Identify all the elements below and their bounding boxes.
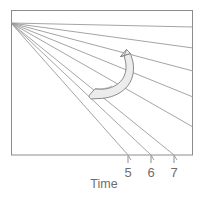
axis-crossing-extensions	[128, 155, 177, 160]
fan-line-4	[11, 23, 193, 97]
figure-root: 5 6 7 Time	[0, 0, 209, 201]
plot-frame	[12, 11, 193, 156]
fan-line-6	[11, 23, 174, 155]
fan-line-3	[11, 23, 193, 71]
curved-arrow-icon	[89, 50, 133, 99]
x-axis-ticks	[128, 156, 174, 163]
x-tick-label-6: 6	[147, 165, 154, 180]
fan-line-7	[11, 23, 151, 155]
curved-arrow-shape	[89, 54, 133, 99]
fan-chart: 5 6 7 Time	[0, 0, 209, 201]
x-tick-label-5: 5	[124, 165, 131, 180]
x-axis-label: Time	[90, 177, 117, 191]
fan-line-5	[11, 23, 193, 127]
x-tick-label-7: 7	[170, 165, 177, 180]
